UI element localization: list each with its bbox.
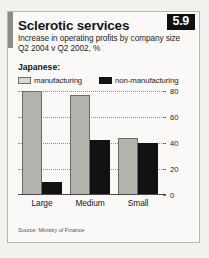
y-tick-60 — [163, 117, 166, 118]
y-axis-tick-label: 80 — [170, 87, 178, 96]
y-tick-40 — [163, 143, 166, 144]
bar-medium-manufacturing — [70, 95, 90, 195]
chart-subtitle-line2: Q2 2004 v Q2 2002, % — [18, 44, 193, 54]
chart-legend: manufacturing non-manufacturing — [18, 76, 193, 85]
y-tick-20 — [163, 169, 166, 170]
legend-swatch-non-manufacturing-icon — [99, 77, 112, 84]
y-axis-tick-label: 60 — [170, 113, 178, 122]
x-axis-label-large: Large — [18, 198, 66, 208]
y-axis-tick-label: 0 — [170, 191, 174, 200]
accent-bar — [8, 12, 13, 48]
bar-group-medium — [66, 91, 114, 195]
bar-small-non-manufacturing — [138, 143, 158, 195]
issue-number-badge: 5.9 — [167, 14, 195, 30]
chart-source: Source: Ministry of Finance — [18, 227, 84, 233]
bar-small-manufacturing — [118, 138, 138, 195]
x-axis-label-small: Small — [114, 198, 162, 208]
legend-label-non-manufacturing: non-manufacturing — [115, 76, 178, 85]
legend-swatch-manufacturing-icon — [18, 77, 31, 84]
x-axis-line — [18, 194, 166, 195]
bar-group-small — [114, 91, 162, 195]
bar-large-manufacturing — [22, 91, 42, 195]
series-group-label: Japanese: — [18, 62, 60, 72]
x-axis-category-labels: LargeMediumSmall — [18, 198, 162, 208]
chart-subtitle-line1: Increase in operating profits by company… — [18, 34, 193, 44]
bar-groups — [18, 91, 162, 195]
legend-label-manufacturing: manufacturing — [34, 76, 82, 85]
legend-item-manufacturing: manufacturing — [18, 76, 82, 85]
y-tick-0 — [163, 195, 166, 196]
bar-medium-non-manufacturing — [90, 140, 110, 195]
bar-group-large — [18, 91, 66, 195]
chart-plot-area: 020406080 LargeMediumSmall — [18, 91, 191, 204]
plot-canvas — [18, 91, 162, 195]
y-tick-80 — [163, 91, 166, 92]
legend-item-non-manufacturing: non-manufacturing — [99, 76, 178, 85]
x-axis-label-medium: Medium — [66, 198, 114, 208]
y-axis-tick-label: 40 — [170, 139, 178, 148]
chart-card: Sclerotic services Increase in operating… — [7, 11, 200, 243]
y-axis-tick-label: 20 — [170, 165, 178, 174]
